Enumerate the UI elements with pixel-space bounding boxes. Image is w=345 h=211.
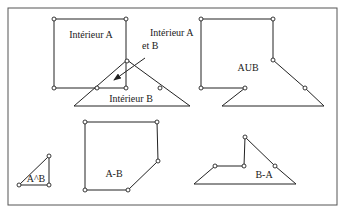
a-and-b-shape: A^B — [19, 156, 49, 185]
vertex-circle-icon — [303, 86, 307, 90]
square-a: Intérieur A — [54, 19, 126, 88]
vertex-circle-icon — [126, 188, 130, 192]
vertex-markers — [17, 17, 307, 192]
union-shape: AUB — [201, 19, 324, 106]
vertex-circle-icon — [52, 17, 56, 21]
vertex-circle-icon — [47, 183, 51, 187]
vertex-circle-icon — [243, 135, 247, 139]
vertex-circle-icon — [125, 59, 129, 63]
label-b-minus-a: B-A — [255, 169, 273, 180]
vertex-circle-icon — [83, 120, 87, 124]
vertex-circle-icon — [242, 164, 246, 168]
label-a-and-b: A^B — [27, 173, 46, 184]
vertex-circle-icon — [17, 183, 21, 187]
vertex-circle-icon — [156, 159, 160, 163]
vertex-circle-icon — [158, 86, 162, 90]
a-minus-b-shape: A-B — [85, 122, 158, 190]
vertex-circle-icon — [273, 164, 277, 168]
vertex-circle-icon — [124, 86, 128, 90]
vertex-circle-icon — [95, 86, 99, 90]
vertex-circle-icon — [199, 17, 203, 21]
label-interieur-b: Intérieur B — [109, 93, 153, 104]
vertex-circle-icon — [155, 120, 159, 124]
label-interieur-a-et-b-line2: et B — [142, 40, 159, 51]
vertex-circle-icon — [213, 164, 217, 168]
vertex-circle-icon — [47, 154, 51, 158]
label-interieur-a: Intérieur A — [69, 29, 113, 40]
vertex-circle-icon — [199, 86, 203, 90]
vertex-circle-icon — [52, 86, 56, 90]
vertex-circle-icon — [271, 17, 275, 21]
label-aub: AUB — [237, 62, 258, 73]
label-a-minus-b: A-B — [105, 168, 123, 179]
vertex-circle-icon — [271, 58, 275, 62]
set-operations-diagram: Intérieur A Intérieur B Intérieur A et B… — [0, 0, 345, 211]
vertex-circle-icon — [124, 17, 128, 21]
vertex-circle-icon — [83, 188, 87, 192]
vertex-circle-icon — [243, 86, 247, 90]
diagram-svg: Intérieur A Intérieur B Intérieur A et B… — [0, 0, 345, 211]
b-minus-a-shape: B-A — [194, 137, 296, 184]
label-interieur-a-et-b-line1: Intérieur A — [150, 27, 194, 38]
